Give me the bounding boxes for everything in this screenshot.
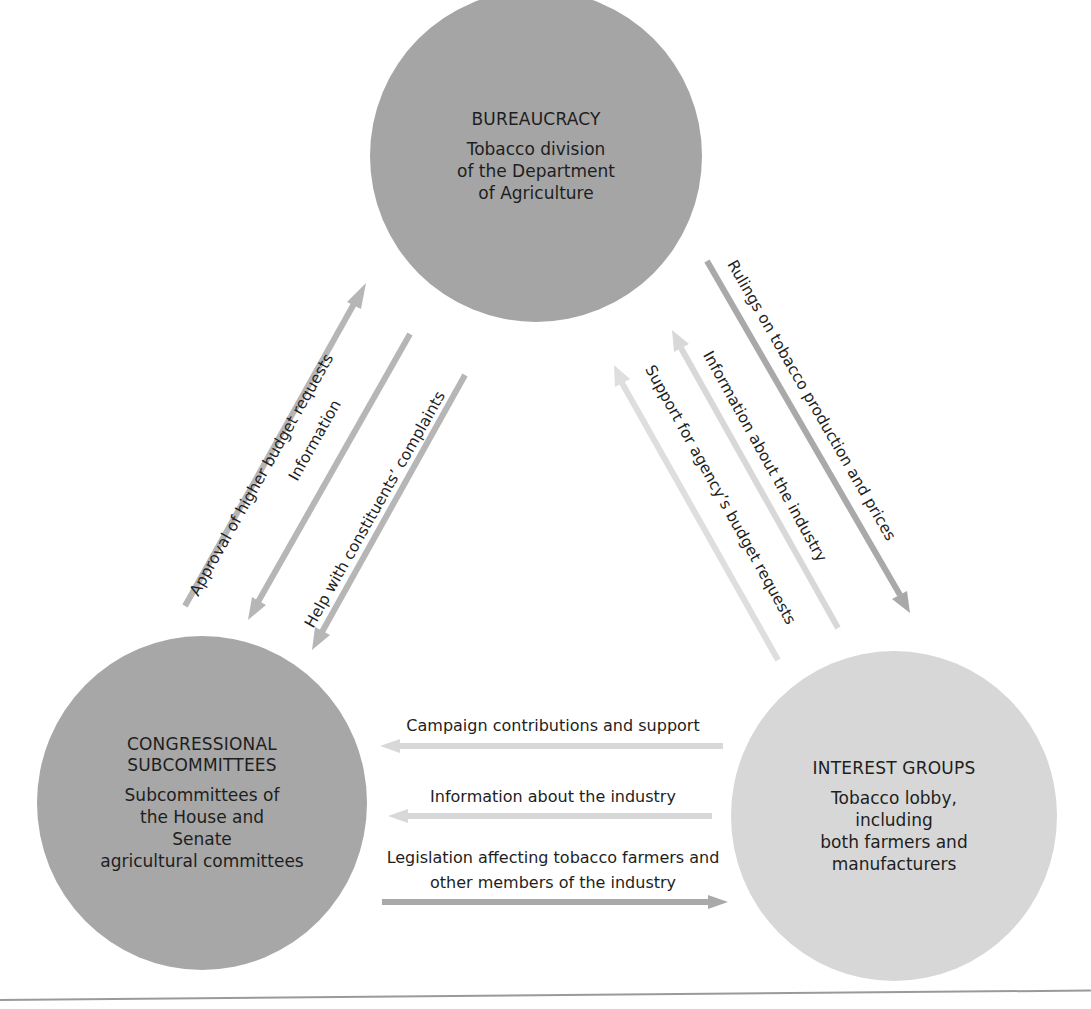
arrow-support	[614, 365, 778, 660]
arrow-rulings	[707, 261, 910, 613]
label-campaign: Campaign contributions and support	[383, 713, 723, 738]
arrow-information-bottom	[388, 809, 712, 823]
arrow-information-right	[672, 330, 838, 628]
label-legislation: Legislation affecting tobacco farmers an…	[368, 845, 738, 895]
iron-triangle-diagram: BUREAUCRACY Tobacco division of the Depa…	[0, 0, 1091, 1009]
label-information-bottom: Information about the industry	[383, 784, 723, 809]
arrow-campaign	[380, 739, 723, 753]
arrow-legislation	[382, 895, 728, 909]
